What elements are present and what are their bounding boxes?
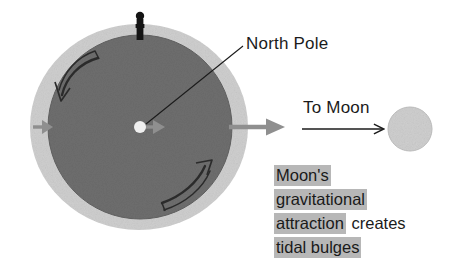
caption-line-2: gravitational [274, 187, 454, 211]
caption-highlight: attraction [274, 213, 346, 234]
caption-highlight: Moon's [274, 165, 331, 186]
caption-text-block: Moon's gravitational attraction creates … [274, 163, 454, 259]
caption-line-1: Moon's [274, 163, 454, 187]
caption-highlight: gravitational [274, 189, 367, 210]
pole-marker-icon [136, 12, 145, 40]
caption-highlight: tidal bulges [274, 237, 361, 258]
caption-line-3: attraction creates [274, 211, 454, 235]
to-moon-label: To Moon [303, 98, 370, 118]
figure-canvas: North Pole To Moon Moon's gravitational … [0, 0, 455, 280]
caption-plain-word: creates [346, 213, 407, 234]
north-pole-dot [134, 121, 146, 133]
moon-circle [388, 107, 432, 151]
north-pole-label: North Pole [246, 34, 328, 54]
caption-line-4: tidal bulges [274, 235, 454, 259]
